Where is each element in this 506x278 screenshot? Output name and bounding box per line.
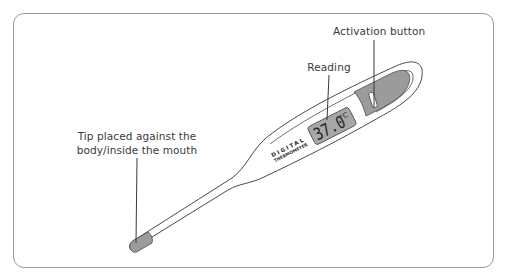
- label-activation-button: Activation button: [333, 25, 415, 39]
- label-tip: Tip placed against the body/inside the m…: [72, 130, 202, 157]
- sensor-tip: [130, 232, 153, 252]
- leader-line-tip: [136, 158, 137, 243]
- label-tip-line2: body/inside the mouth: [72, 144, 202, 158]
- label-reading: Reading: [302, 61, 356, 75]
- label-tip-line1: Tip placed against the: [72, 130, 202, 144]
